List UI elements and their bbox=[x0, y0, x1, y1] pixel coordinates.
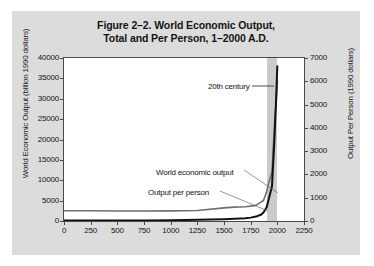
plot-area bbox=[63, 57, 305, 222]
figure-title: Figure 2–2. World Economic Output, Total… bbox=[12, 19, 360, 44]
y-tick-left-40000: 40000 bbox=[27, 53, 59, 62]
tick-mark bbox=[251, 222, 252, 225]
tick-mark bbox=[171, 222, 172, 225]
y-axis-right-title: Output Per Person (1990 dollars) bbox=[346, 29, 355, 179]
y-tick-right-5000: 5000 bbox=[310, 100, 340, 109]
tick-mark bbox=[60, 160, 63, 161]
y-tick-left-0: 0 bbox=[27, 216, 59, 225]
y-tick-left-15000: 15000 bbox=[27, 155, 59, 164]
annotation-output-per-person: Output per person bbox=[148, 188, 209, 197]
tick-mark bbox=[60, 201, 63, 202]
tick-mark bbox=[60, 119, 63, 120]
y-tick-right-6000: 6000 bbox=[310, 76, 340, 85]
figure-panel: Figure 2–2. World Economic Output, Total… bbox=[12, 11, 360, 255]
tick-mark bbox=[304, 222, 305, 225]
annotation-twentieth-century: 20th century bbox=[208, 82, 250, 91]
tick-mark bbox=[60, 140, 63, 141]
figure-title-line-1: Figure 2–2. World Economic Output, bbox=[12, 19, 360, 32]
tick-mark bbox=[91, 222, 92, 225]
y-tick-right-2000: 2000 bbox=[310, 169, 340, 178]
tick-mark bbox=[144, 222, 145, 225]
y-tick-right-1000: 1000 bbox=[310, 193, 340, 202]
tick-mark bbox=[305, 198, 308, 199]
tick-mark bbox=[60, 221, 63, 222]
x-tick-2250: 2250 bbox=[288, 226, 320, 235]
tick-mark bbox=[117, 222, 118, 225]
y-tick-right-4000: 4000 bbox=[310, 123, 340, 132]
tick-mark bbox=[305, 58, 308, 59]
y-tick-left-25000: 25000 bbox=[27, 114, 59, 123]
y-tick-left-30000: 30000 bbox=[27, 94, 59, 103]
y-tick-right-0: 0 bbox=[310, 216, 340, 225]
tick-mark bbox=[64, 222, 65, 225]
tick-mark bbox=[305, 174, 308, 175]
tick-mark bbox=[277, 222, 278, 225]
tick-mark bbox=[60, 58, 63, 59]
y-tick-left-10000: 10000 bbox=[27, 175, 59, 184]
y-tick-left-20000: 20000 bbox=[27, 135, 59, 144]
tick-mark bbox=[305, 105, 308, 106]
tick-mark bbox=[305, 151, 308, 152]
tick-mark bbox=[305, 221, 308, 222]
tick-mark bbox=[305, 81, 308, 82]
figure-title-line-2: Total and Per Person, 1–2000 A.D. bbox=[12, 32, 360, 45]
y-tick-left-5000: 5000 bbox=[27, 196, 59, 205]
tick-mark bbox=[197, 222, 198, 225]
y-tick-right-3000: 3000 bbox=[310, 146, 340, 155]
y-tick-right-7000: 7000 bbox=[310, 53, 340, 62]
tick-mark bbox=[60, 99, 63, 100]
tick-mark bbox=[305, 128, 308, 129]
tick-mark bbox=[224, 222, 225, 225]
tick-mark bbox=[60, 78, 63, 79]
annotation-world-economic-output: World economic output bbox=[156, 168, 233, 177]
y-tick-left-35000: 35000 bbox=[27, 73, 59, 82]
tick-mark bbox=[60, 180, 63, 181]
